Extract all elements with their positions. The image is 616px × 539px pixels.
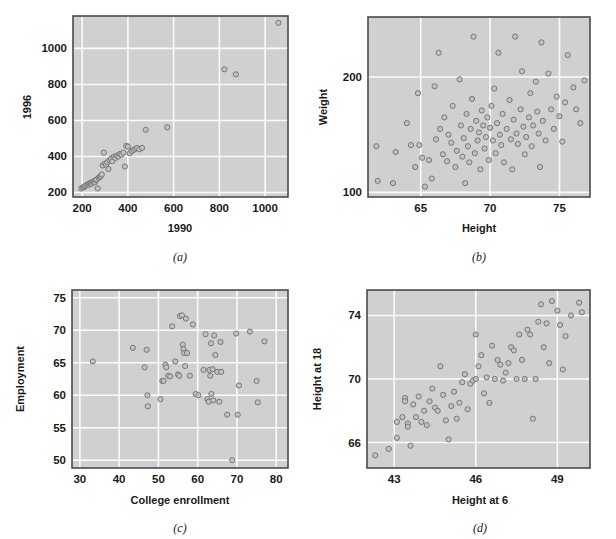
data-point xyxy=(121,150,126,155)
data-point xyxy=(489,103,494,108)
y-tick-label: 65 xyxy=(53,357,66,369)
data-point xyxy=(458,123,463,128)
data-point xyxy=(453,164,458,169)
panel-c-xtick-labels: 304050607080 xyxy=(73,473,282,485)
data-point xyxy=(247,329,252,334)
data-point xyxy=(411,402,416,407)
y-tick-label: 100 xyxy=(343,186,362,198)
y-tick-label: 60 xyxy=(53,389,66,401)
data-point xyxy=(469,96,474,101)
data-point xyxy=(486,157,491,162)
data-point xyxy=(540,118,545,123)
data-point xyxy=(507,97,512,102)
data-point xyxy=(99,172,104,177)
data-point xyxy=(473,376,478,381)
data-point xyxy=(514,131,519,136)
data-point xyxy=(164,365,169,370)
data-point xyxy=(408,443,413,448)
y-tick-label: 50 xyxy=(53,454,66,466)
data-point xyxy=(254,378,259,383)
panel-b-ytick-labels: 100200 xyxy=(343,71,362,198)
y-tick-label: 1000 xyxy=(41,42,67,54)
data-point xyxy=(528,91,533,96)
data-point xyxy=(236,383,241,388)
data-point xyxy=(481,391,486,396)
data-point xyxy=(465,407,470,412)
data-point xyxy=(467,160,472,165)
data-point xyxy=(373,453,378,458)
panel-a-y-axis-label: 1996 xyxy=(21,95,33,119)
data-point xyxy=(440,152,445,157)
data-point xyxy=(582,78,587,83)
data-point xyxy=(500,378,505,383)
data-point xyxy=(511,117,516,122)
data-point xyxy=(497,132,502,137)
x-tick-label: 400 xyxy=(118,202,137,214)
y-tick-label: 800 xyxy=(48,78,67,90)
panel-c-svg: 505560657075 304050607080 Employment Col… xyxy=(0,268,308,539)
data-point xyxy=(161,378,166,383)
x-tick-label: 75 xyxy=(553,202,566,214)
data-point xyxy=(475,138,480,143)
data-point xyxy=(522,376,527,381)
data-point xyxy=(225,412,230,417)
data-point xyxy=(417,142,422,147)
data-point xyxy=(276,20,281,25)
panel-c-ytick-labels: 505560657075 xyxy=(53,292,66,466)
y-tick-label: 70 xyxy=(53,324,66,336)
data-point xyxy=(408,142,413,147)
data-point xyxy=(426,157,431,162)
data-point xyxy=(125,144,130,149)
panel-b-y-axis-label: Weight xyxy=(317,88,329,125)
data-point xyxy=(449,140,454,145)
data-point xyxy=(413,164,418,169)
data-point xyxy=(495,357,500,362)
x-tick-label: 800 xyxy=(210,202,229,214)
data-point xyxy=(471,34,476,39)
panel-a-plot-background xyxy=(73,16,288,197)
data-point xyxy=(184,350,189,355)
data-point xyxy=(472,151,477,156)
data-point xyxy=(441,392,446,397)
data-point xyxy=(173,359,178,364)
data-point xyxy=(565,52,570,57)
data-point xyxy=(547,361,552,366)
x-tick-label: 43 xyxy=(388,473,401,485)
data-point xyxy=(142,365,147,370)
data-point xyxy=(537,164,542,169)
data-point xyxy=(187,373,192,378)
data-point xyxy=(208,341,213,346)
data-point xyxy=(158,397,163,402)
panel-d-y-axis-label: Height at 18 xyxy=(311,348,323,410)
data-point xyxy=(511,348,516,353)
panel-a-xtick-labels: 2004006008001000 xyxy=(73,202,278,214)
panel-b-svg: 100200 657075 Weight Height (b) xyxy=(308,0,616,270)
x-tick-label: 200 xyxy=(73,202,92,214)
data-point xyxy=(442,115,447,120)
data-point xyxy=(488,125,493,130)
x-tick-label: 40 xyxy=(113,473,126,485)
data-point xyxy=(400,415,405,420)
data-point xyxy=(473,332,478,337)
data-point xyxy=(549,107,554,112)
data-point xyxy=(446,132,451,137)
data-point xyxy=(490,138,495,143)
y-tick-label: 74 xyxy=(348,309,361,321)
data-point xyxy=(130,345,135,350)
data-point xyxy=(549,299,554,304)
data-point xyxy=(394,435,399,440)
data-point xyxy=(500,111,505,116)
data-point xyxy=(554,94,559,99)
data-point xyxy=(530,416,535,421)
data-point xyxy=(219,369,224,374)
data-point xyxy=(262,339,267,344)
y-tick-label: 200 xyxy=(343,71,362,83)
x-tick-label: 80 xyxy=(270,473,283,485)
data-point xyxy=(577,300,582,305)
data-point xyxy=(454,148,459,153)
data-point xyxy=(529,144,534,149)
data-point xyxy=(209,391,214,396)
data-point xyxy=(183,363,188,368)
data-point xyxy=(144,347,149,352)
data-point xyxy=(494,121,499,126)
